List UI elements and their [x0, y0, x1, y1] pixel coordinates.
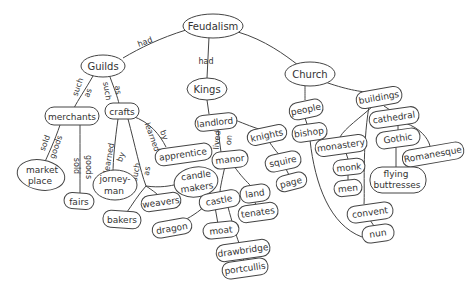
node-label: place [28, 176, 53, 186]
node-fairs[interactable]: fairs [63, 192, 94, 210]
node-nun[interactable]: nun [361, 223, 395, 244]
node-land[interactable]: land [239, 183, 271, 204]
node-manor[interactable]: manor [211, 149, 249, 170]
link-label: as [113, 85, 123, 96]
node-flying-buttresses[interactable]: flying buttresses [370, 167, 426, 193]
node-label: Guilds [87, 61, 118, 72]
node-label: market [26, 165, 58, 175]
node-kings[interactable]: Kings [187, 78, 227, 100]
node-squire[interactable]: squire [264, 149, 303, 173]
link-label: goods [84, 155, 93, 179]
node-label: man [104, 186, 124, 196]
nodes: Feudalism Guilds Kings Church merchants … [15, 14, 465, 280]
node-apprentice[interactable]: apprentice [154, 142, 213, 167]
node-church[interactable]: Church [285, 62, 335, 86]
link-label: had [136, 35, 153, 49]
node-label: jorney- [98, 174, 130, 184]
node-convent[interactable]: convent [346, 201, 394, 224]
node-tenates[interactable]: tenates [237, 201, 279, 223]
node-label: merchants [48, 112, 96, 122]
node-landlord[interactable]: landlord [194, 112, 237, 132]
node-label: flying [384, 169, 409, 179]
node-label: Feudalism [188, 21, 239, 32]
link-label: on [224, 135, 234, 146]
concept-map: had had such as such as sold goods sold … [0, 0, 474, 292]
node-label: Church [292, 69, 327, 80]
link-label: as [142, 166, 152, 177]
node-merchants[interactable]: merchants [45, 107, 99, 125]
link-label: by [158, 129, 170, 142]
link-label: had [198, 57, 213, 66]
node-label: fairs [69, 197, 89, 207]
node-crafts[interactable]: crafts [105, 103, 139, 119]
node-label: crafts [109, 107, 135, 117]
node-label: bakers [107, 215, 137, 225]
node-journeyman[interactable]: jorney- man [93, 170, 137, 200]
node-label: Kings [193, 84, 220, 95]
node-bakers[interactable]: bakers [102, 210, 141, 230]
link-label: lived [212, 130, 223, 150]
link-label: such [101, 81, 113, 101]
node-weavers[interactable]: weavers [140, 191, 182, 212]
link-label: learned [143, 121, 162, 153]
node-label: men [337, 182, 358, 194]
node-dragon[interactable]: dragon [151, 217, 193, 240]
node-buildings[interactable]: buildings [355, 85, 403, 110]
node-men[interactable]: men [333, 179, 363, 198]
node-guilds[interactable]: Guilds [81, 55, 125, 77]
link-label: as [82, 87, 94, 99]
node-page[interactable]: page [275, 170, 309, 193]
node-monk[interactable]: monk [332, 157, 365, 176]
link-label: sold [72, 158, 81, 174]
node-people[interactable]: people [288, 98, 325, 122]
node-feudalism[interactable]: Feudalism [183, 14, 243, 38]
link-label: by [115, 151, 127, 164]
node-label: buttresses [373, 180, 420, 190]
node-gothic[interactable]: Gothic [375, 127, 421, 150]
node-moat[interactable]: moat [202, 220, 239, 240]
node-market-place[interactable]: market place [15, 156, 67, 194]
